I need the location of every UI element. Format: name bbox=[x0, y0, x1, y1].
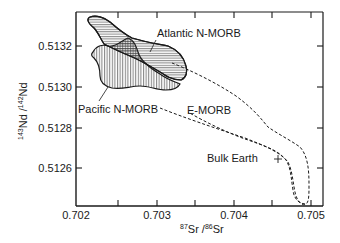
pacific-n-morb-label: Pacific N-MORB bbox=[78, 103, 158, 115]
e-morb-field bbox=[172, 63, 309, 204]
atlantic-n-morb-label: Atlantic N-MORB bbox=[157, 27, 241, 39]
x-tick-label: 0.705 bbox=[297, 209, 325, 221]
bulk-earth-label: Bulk Earth bbox=[207, 152, 258, 164]
x-ticks bbox=[118, 200, 311, 206]
x-ticks-top bbox=[118, 12, 311, 18]
x-tick-label: 0.703 bbox=[143, 209, 171, 221]
x-tick-label: 0.702 bbox=[62, 209, 90, 221]
y-tick-label: 0.5128 bbox=[38, 122, 72, 134]
x-tick-label: 0.704 bbox=[220, 209, 248, 221]
y-ticks-right bbox=[317, 46, 323, 168]
e-morb-label: E-MORB bbox=[187, 104, 231, 116]
y-tick-labels: 0.5132 0.5130 0.5128 0.5126 bbox=[38, 40, 72, 174]
sr-nd-isotope-chart: 0.702 0.703 0.704 0.705 0.5132 0.5130 0.… bbox=[0, 0, 340, 243]
y-tick-label: 0.5130 bbox=[38, 81, 72, 93]
y-tick-label: 0.5126 bbox=[38, 162, 72, 174]
x-tick-labels: 0.702 0.703 0.704 0.705 bbox=[62, 209, 325, 221]
y-tick-label: 0.5132 bbox=[38, 40, 72, 52]
pacific-leader-line bbox=[99, 87, 108, 101]
bulk-earth-marker bbox=[274, 155, 282, 163]
y-axis-title: 143Nd /142Nd bbox=[17, 82, 29, 140]
x-axis-title: 87Sr /86Sr bbox=[180, 223, 224, 235]
